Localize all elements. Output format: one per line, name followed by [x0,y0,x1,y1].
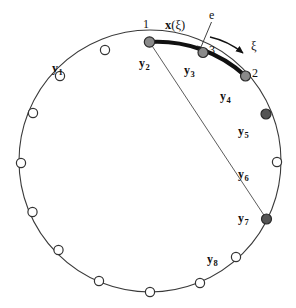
xi-parameter-label: ξ [251,40,257,53]
control-point-node [100,45,109,54]
control-point-node [195,278,204,287]
control-point-label-subscript: 5 [245,130,249,140]
element-node-number-1: 1 [143,18,149,30]
control-point-label-y4: y4 [220,90,230,102]
control-point-label-subscript: 6 [245,173,249,183]
control-point-label-base: y [139,56,145,70]
element-node-number-text: 1 [143,17,149,31]
control-point-node [231,252,240,261]
xi-parameter-text: ξ [251,39,257,53]
control-point-label-y3: y3 [184,64,194,76]
control-point-node [28,207,37,216]
control-point-label-subscript: 8 [214,258,218,268]
control-point-label-y6: y6 [238,168,248,180]
control-point-label-subscript: 4 [227,95,231,105]
control-point-label-base: y [238,167,244,181]
figure-canvas: y1y2y3y4y5y6y7y8132eξx(ξ) [0,0,296,308]
control-point-node [16,158,25,167]
control-point-label-base: y [52,61,58,75]
control-point-node [261,109,271,119]
element-node-number-text: 2 [252,66,258,80]
element-node-number-2: 2 [252,67,258,79]
control-point-label-y8: y8 [207,253,217,265]
mapping-label-paren-close: ) [181,18,185,32]
mapping-label-x-of-xi: x(ξ) [165,19,185,32]
control-point-label-base: y [220,89,226,103]
element-node-1 [144,37,154,47]
control-point-label-base: y [207,252,213,266]
control-point-node [94,276,103,285]
control-point-label-y7: y7 [238,212,248,224]
control-point-node [28,108,37,117]
control-point-label-subscript: 1 [59,67,63,77]
control-point-label-subscript: 3 [191,69,195,79]
control-point-label-y2: y2 [139,57,149,69]
element-label-text: e [209,8,214,22]
control-point-label-base: y [184,63,190,77]
element-label-e: e [209,9,214,21]
control-point-node [272,157,281,166]
element-node-number-3: 3 [209,44,215,56]
control-point-node [54,245,63,254]
element-node-3 [198,48,208,58]
control-point-label-subscript: 7 [245,217,249,227]
control-point-label-base: y [238,211,244,225]
control-point-label-y1: y1 [52,62,62,74]
element-node-2 [241,71,251,81]
element-arc-e [150,42,246,76]
control-point-node [145,287,154,296]
control-point-label-base: y [238,124,244,138]
element-node-number-text: 3 [209,43,215,57]
control-point-node [262,214,272,224]
control-point-label-subscript: 2 [146,62,150,72]
control-point-label-y5: y5 [238,125,248,137]
